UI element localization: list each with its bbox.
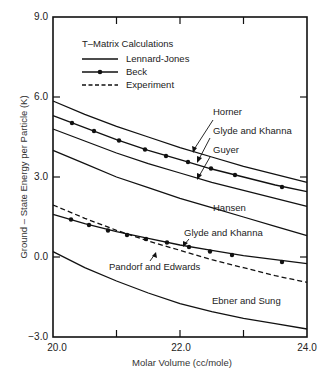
legend: T–Matrix Calculations Lennard-Jones Beck… [82,38,190,90]
x-tick-20: 20.0 [47,342,67,353]
y-axis-title: Ground – State Energy per Particle (K) [18,95,29,258]
annotation-glyde-khanna-upper: Glyde and Khanna [213,125,292,136]
annotation-pandorf-edwards: Pandorf and Edwards [109,261,201,272]
y-tick-9: 9.0 [34,11,48,22]
x-axis-title: Molar Volume (cc/mole) [132,357,232,368]
legend-label-lennard-jones: Lennard-Jones [126,53,190,64]
x-tick-24: 24.0 [297,342,317,353]
annotation-hansen: Hansen [213,202,246,213]
y-tick-6: 6.0 [34,91,48,102]
annotations: Horner Glyde and Khanna Guyer Hansen Gly… [109,106,292,306]
plot-frame [53,17,307,337]
legend-label-experiment: Experiment [126,79,174,90]
curve-hansen [53,150,307,235]
y-tick-3: 3.0 [34,171,48,182]
x-ticks [117,17,244,337]
chart-svg: 9.0 6.0 3.0 0.0 −3.0 20.0 22.0 24.0 Mola… [0,0,334,377]
y-tick-neg3: −3.0 [28,331,48,342]
legend-title: T–Matrix Calculations [82,38,174,49]
curve-glyde-khanna-lower [53,214,307,263]
annotation-glyde-khanna-lower: Glyde and Khanna [184,227,263,238]
legend-label-beck: Beck [126,66,147,77]
annotation-ebner-sung: Ebner and Sung [212,295,281,306]
arrow-icon [197,156,202,163]
x-tick-22: 22.0 [171,342,191,353]
y-tick-0: 0.0 [34,251,48,262]
annotation-guyer: Guyer [213,144,239,155]
annotation-horner: Horner [213,106,242,117]
legend-dot-icon [98,70,103,75]
curve-horner [53,101,307,182]
curve-guyer [53,129,307,206]
y-ticks [53,97,307,257]
